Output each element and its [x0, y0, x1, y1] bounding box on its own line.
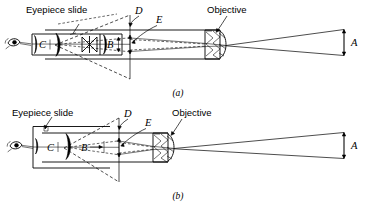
label-a-b: A	[350, 140, 358, 151]
eye-icon	[5, 39, 31, 50]
panel-a: B C	[5, 4, 358, 99]
label-objective-a: Objective	[207, 4, 247, 15]
caption-a: (a)	[172, 88, 183, 99]
label-d-group-a: D	[129, 5, 143, 27]
label-d-a: D	[134, 5, 143, 16]
label-a-a: A	[350, 37, 358, 48]
label-objective-b: Objective	[172, 107, 212, 118]
eyepiece-slide-leader-b: Eyepiece slide	[12, 107, 73, 129]
field-envelope-dashed-b	[64, 118, 119, 182]
outgoing-ray-bundle-b	[174, 133, 344, 159]
label-objective-group-b: Objective	[171, 107, 211, 135]
figure-root: B C	[0, 0, 368, 206]
eye-icon-b	[7, 142, 33, 153]
label-e-a: E	[155, 14, 163, 25]
label-e-group-b: E	[121, 117, 152, 146]
label-eyepiece-slide-b: Eyepiece slide	[12, 107, 73, 118]
label-d-group-b: D	[118, 108, 132, 130]
label-b-a: B	[107, 39, 114, 50]
label-c-group-a: C	[39, 39, 50, 50]
label-d-b: D	[123, 108, 132, 119]
label-eyepiece-slide-a: Eyepiece slide	[26, 4, 87, 15]
optical-diagram-svg: B C	[0, 0, 368, 206]
caption-b: (b)	[172, 191, 183, 202]
aperture-a-arrow-b: A	[342, 133, 358, 159]
label-e-b: E	[144, 117, 152, 128]
panel-b: C B	[7, 107, 358, 202]
field-lens-a	[82, 36, 97, 53]
label-objective-group-a: Objective	[207, 4, 247, 32]
outgoing-ray-bundle-a	[226, 30, 344, 56]
label-c-a: C	[39, 39, 47, 50]
aperture-a-arrow-a: A	[342, 30, 358, 56]
